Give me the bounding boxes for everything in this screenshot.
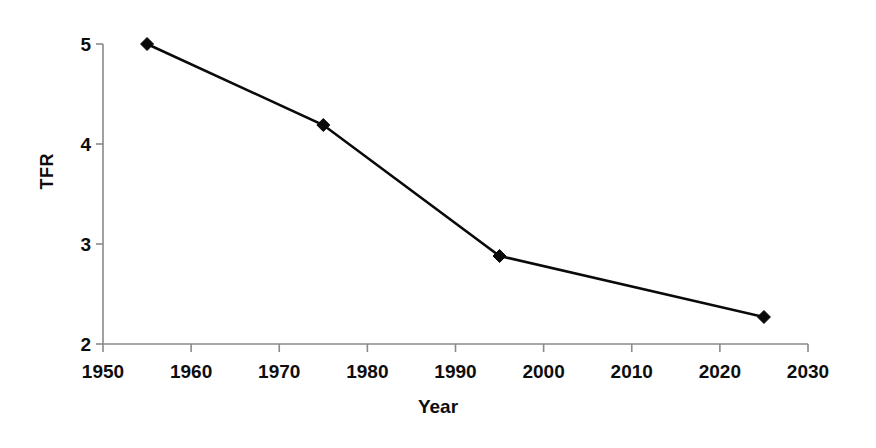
x-tick-label: 2000: [522, 362, 564, 381]
data-series-tfr: [141, 38, 771, 324]
y-tick-label: 4: [55, 135, 91, 154]
x-axis-ticks: [103, 344, 808, 352]
x-tick-label: 1950: [82, 362, 124, 381]
y-tick-label: 5: [55, 35, 91, 54]
series-line-tfr: [147, 44, 764, 317]
x-tick-label: 2030: [787, 362, 829, 381]
y-axis-ticks: [96, 44, 103, 344]
y-tick-label: 3: [55, 235, 91, 254]
x-tick-label: 2010: [611, 362, 653, 381]
x-tick-label: 2020: [699, 362, 741, 381]
x-tick-label: 1990: [434, 362, 476, 381]
data-point-marker: [757, 311, 770, 324]
y-axis-title: TFR: [37, 164, 58, 190]
data-point-marker: [141, 38, 154, 51]
x-tick-label: 1980: [346, 362, 388, 381]
y-tick-label: 2: [55, 335, 91, 354]
chart-container: 2345 19501960197019801990200020102020203…: [0, 0, 876, 448]
x-tick-label: 1960: [170, 362, 212, 381]
chart-axes: [103, 44, 808, 344]
x-axis-title: Year: [0, 396, 876, 418]
x-tick-label: 1970: [258, 362, 300, 381]
series-markers-tfr: [141, 38, 771, 324]
